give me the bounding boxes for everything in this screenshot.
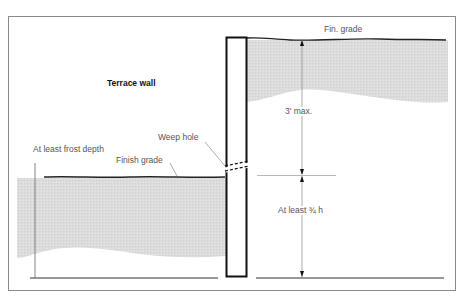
upper-grade-line — [247, 38, 446, 40]
finish-grade-leader — [170, 163, 177, 176]
finish-grade-label: Finish grade — [116, 156, 163, 165]
weep-hole-leader — [205, 142, 225, 166]
arrow-down-icon — [300, 271, 304, 277]
three-ft-max-label: 3' max. — [285, 107, 312, 116]
weep-hole-label: Weep hole — [158, 133, 198, 142]
lower-soil-area — [17, 178, 226, 258]
frost-depth-label: At least frost depth — [33, 145, 104, 154]
arrow-up-icon — [300, 176, 304, 182]
lower-grade-line — [44, 177, 225, 178]
fin-grade-label: Fin. grade — [324, 25, 362, 34]
three-quarter-h-label: At least ¾ h — [278, 206, 323, 215]
diagram-title: Terrace wall — [107, 79, 156, 88]
terrace-wall — [227, 38, 247, 277]
arrow-down-icon — [300, 169, 304, 175]
retained-soil-area — [247, 40, 448, 103]
